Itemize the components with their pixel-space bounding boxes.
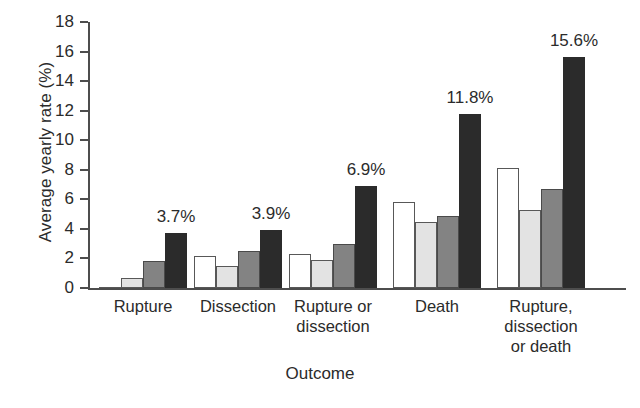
bar-series-2 (415, 222, 437, 289)
y-axis-tick (80, 51, 88, 53)
bar-series-2 (121, 278, 143, 288)
y-axis-tick-label: 18 (34, 13, 74, 30)
y-axis-tick (80, 139, 88, 141)
x-axis-category-label-line: Rupture, (476, 296, 606, 316)
x-axis-category-label-line: dissection (268, 316, 398, 336)
y-axis-tick (80, 110, 88, 112)
bar-group-bars (393, 22, 481, 288)
bar-series-2 (519, 210, 541, 288)
y-axis-tick (80, 198, 88, 200)
bar-series-3 (143, 261, 165, 288)
bar-series-1 (393, 202, 415, 288)
y-axis-tick (80, 257, 88, 259)
y-axis-tick-label: 6 (34, 190, 74, 207)
y-axis-tick-label: 16 (34, 43, 74, 60)
bar-group-bars (99, 22, 187, 288)
y-axis-tick (80, 169, 88, 171)
bar-series-2 (311, 260, 333, 288)
y-axis-tick (80, 80, 88, 82)
bar-series-3 (333, 244, 355, 288)
y-axis-tick-label: 14 (34, 72, 74, 89)
bar-series-4 (355, 186, 377, 288)
bar-series-4 (165, 233, 187, 288)
bar-series-3 (541, 189, 563, 288)
bar-series-4 (260, 230, 282, 288)
x-axis-category-label-line: dissection (476, 316, 606, 336)
bar-series-2 (216, 266, 238, 288)
bar-value-label: 6.9% (331, 160, 401, 180)
y-axis-tick-label: 0 (34, 279, 74, 296)
x-axis-title: Outcome (0, 364, 640, 384)
bar-series-3 (437, 216, 459, 288)
bar-value-label: 11.8% (435, 88, 505, 108)
y-axis-tick (80, 228, 88, 230)
y-axis-tick-label: 4 (34, 220, 74, 237)
y-axis-tick-label: 10 (34, 131, 74, 148)
y-axis-line (88, 22, 90, 289)
bar-series-3 (238, 251, 260, 288)
y-axis-tick-label: 12 (34, 102, 74, 119)
bar-series-1 (99, 287, 121, 288)
bar-series-1 (289, 254, 311, 288)
x-axis-line (88, 288, 626, 290)
x-axis-category-label: Rupture,dissectionor death (476, 296, 606, 356)
bar-value-label: 15.6% (539, 31, 609, 51)
bar-series-4 (459, 114, 481, 288)
bar-group-bars (289, 22, 377, 288)
bar-series-1 (194, 256, 216, 289)
x-axis-category-label-line: or death (476, 336, 606, 356)
bar-series-4 (563, 57, 585, 288)
y-axis-tick-label: 2 (34, 249, 74, 266)
bar-series-1 (497, 168, 519, 288)
bar-group-bars (497, 22, 585, 288)
bar-chart: Average yearly rate (%) 024681012141618 … (0, 0, 640, 408)
y-axis-tick-label: 8 (34, 161, 74, 178)
bar-group-bars (194, 22, 282, 288)
y-axis-tick (80, 287, 88, 289)
y-axis-tick (80, 21, 88, 23)
